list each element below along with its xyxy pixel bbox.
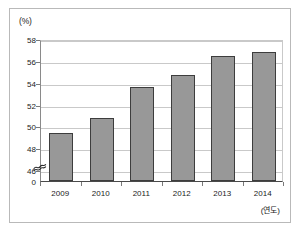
y-axis-tick-mark bbox=[36, 149, 40, 150]
bar-2011 bbox=[130, 87, 154, 181]
bar-2010 bbox=[90, 118, 114, 181]
x-axis-unit-label: (연도) bbox=[261, 204, 280, 215]
x-axis-tick-label: 2010 bbox=[92, 189, 110, 198]
x-axis-tick-mark bbox=[283, 182, 284, 186]
bar-2013 bbox=[211, 56, 235, 181]
bar-2014 bbox=[252, 52, 276, 181]
x-axis-tick-mark bbox=[81, 182, 82, 186]
x-axis-tick-mark bbox=[243, 182, 244, 186]
y-axis-tick-label: 52 bbox=[27, 101, 36, 110]
chart-figure: (%) 585654525048460 20092010201120122013… bbox=[0, 0, 300, 232]
bar-2009 bbox=[49, 133, 73, 181]
plot-area bbox=[40, 40, 283, 182]
x-axis-tick-label: 2014 bbox=[254, 189, 272, 198]
y-axis-tick-mark bbox=[36, 127, 40, 128]
y-axis-tick-mark bbox=[36, 106, 40, 107]
y-axis-tick-label: 48 bbox=[27, 145, 36, 154]
y-axis-tick-label: 58 bbox=[27, 36, 36, 45]
bars-layer bbox=[41, 41, 282, 181]
x-axis-tick-mark bbox=[40, 182, 41, 186]
x-axis-tick-label: 2013 bbox=[213, 189, 231, 198]
x-axis-tick-mark bbox=[162, 182, 163, 186]
x-axis-tick-mark bbox=[121, 182, 122, 186]
y-axis-tick-label: 0 bbox=[32, 178, 36, 187]
x-axis-tick-label: 2011 bbox=[133, 189, 150, 198]
bar-2012 bbox=[171, 75, 195, 181]
y-axis-tick-mark bbox=[36, 62, 40, 63]
y-axis-tick-labels: 585654525048460 bbox=[14, 0, 36, 232]
y-axis-tick-label: 56 bbox=[27, 57, 36, 66]
y-axis-tick-label: 46 bbox=[27, 167, 36, 176]
y-axis-tick-mark bbox=[36, 171, 40, 172]
y-axis-tick-label: 50 bbox=[27, 123, 36, 132]
y-axis-tick-mark bbox=[36, 40, 40, 41]
y-axis-tick-mark bbox=[36, 84, 40, 85]
x-axis-tick-label: 2012 bbox=[173, 189, 191, 198]
x-axis-tick-mark bbox=[202, 182, 203, 186]
x-axis-tick-label: 2009 bbox=[51, 189, 69, 198]
y-axis-tick-label: 54 bbox=[27, 79, 36, 88]
